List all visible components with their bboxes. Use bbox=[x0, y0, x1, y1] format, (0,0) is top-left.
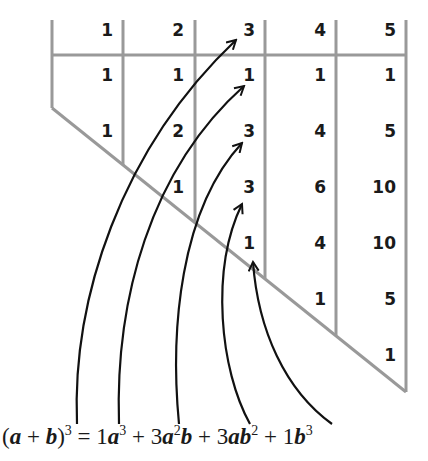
binomial-formula: (a + b)3 = 1a3 + 3a2b + 3ab2 + 1b3 bbox=[2, 424, 313, 450]
cell: 1 bbox=[53, 65, 113, 85]
header-cell-5: 5 bbox=[336, 20, 396, 40]
header-cell-1: 1 bbox=[53, 20, 113, 40]
arrow-exponent-to-header bbox=[77, 40, 236, 424]
term4-exp: 3 bbox=[306, 423, 313, 438]
cell: 1 bbox=[124, 177, 184, 197]
cell: 1 bbox=[336, 345, 396, 365]
paren-open: ( bbox=[2, 424, 10, 449]
header-cell-4: 4 bbox=[266, 20, 326, 40]
plus: + bbox=[27, 424, 40, 449]
term4-var: b bbox=[294, 424, 306, 449]
term2-var-b: b bbox=[181, 424, 193, 449]
header-cell-3: 3 bbox=[195, 20, 255, 40]
cell: 6 bbox=[266, 177, 326, 197]
cell: 4 bbox=[266, 121, 326, 141]
var-a: a bbox=[10, 424, 22, 449]
cell: 3 bbox=[195, 177, 255, 197]
var-b: b bbox=[46, 424, 58, 449]
cell: 5 bbox=[336, 121, 396, 141]
term3-var-a: a bbox=[228, 424, 240, 449]
pascal-triangle-diagram: 1 2 3 4 5 1 1 1 2 1 1 3 3 1 1 4 6 4 1 1 … bbox=[0, 0, 428, 461]
plus: + bbox=[264, 424, 277, 449]
cell: 10 bbox=[336, 177, 396, 197]
cell: 4 bbox=[266, 233, 326, 253]
cell: 2 bbox=[124, 121, 184, 141]
cell: 1 bbox=[195, 65, 255, 85]
plus: + bbox=[132, 424, 145, 449]
equals: = bbox=[78, 424, 91, 449]
term4-coef: 1 bbox=[283, 424, 295, 449]
paren-close: ) bbox=[57, 424, 65, 449]
cell: 1 bbox=[195, 233, 255, 253]
cell: 1 bbox=[336, 65, 396, 85]
cell: 1 bbox=[266, 289, 326, 309]
term2-coef: 3 bbox=[151, 424, 163, 449]
term1-coef: 1 bbox=[96, 424, 108, 449]
cell: 5 bbox=[336, 289, 396, 309]
lhs-exponent: 3 bbox=[65, 423, 72, 438]
term3-var-b: b bbox=[240, 424, 252, 449]
term3-coef: 3 bbox=[217, 424, 229, 449]
term1-var: a bbox=[108, 424, 120, 449]
plus: + bbox=[198, 424, 211, 449]
term2-exp-a: 2 bbox=[174, 423, 181, 438]
term1-exp: 3 bbox=[119, 423, 126, 438]
arrow-term4 bbox=[253, 262, 332, 424]
header-cell-2: 2 bbox=[124, 20, 184, 40]
term2-var-a: a bbox=[162, 424, 174, 449]
cell: 10 bbox=[336, 233, 396, 253]
cell: 1 bbox=[266, 65, 326, 85]
cell: 1 bbox=[53, 121, 113, 141]
cell: 3 bbox=[195, 121, 255, 141]
term3-exp-b: 2 bbox=[251, 423, 258, 438]
cell: 1 bbox=[124, 65, 184, 85]
